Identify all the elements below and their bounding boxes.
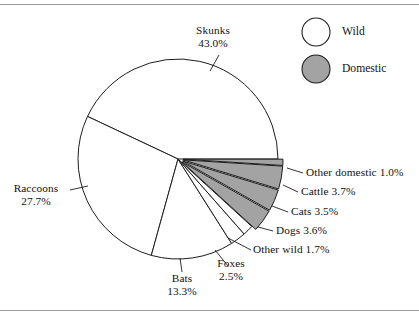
leader-line-bats <box>180 258 182 272</box>
slice-label-skunks-value: 43.0% <box>168 37 258 50</box>
slice-label-foxes-value: 2.5% <box>203 270 259 283</box>
leader-line-cattle <box>283 185 298 192</box>
slice-label-raccoons-value: 27.7% <box>2 195 70 208</box>
leader-line-cats <box>272 206 288 212</box>
slice-label-dogs: Dogs 3.6% <box>276 224 327 237</box>
pie-slices-group <box>78 59 283 259</box>
slice-label-other-domestic: Other domestic 1.0% <box>306 166 404 179</box>
slice-label-skunks-name: Skunks <box>196 24 230 36</box>
legend-swatches-group <box>302 18 330 83</box>
legend-label-domestic: Domestic <box>342 62 386 75</box>
leader-line-dogs <box>258 227 273 231</box>
leader-line-other-domestic <box>287 168 303 173</box>
slice-label-foxes: Foxes 2.5% <box>203 257 259 282</box>
slice-label-foxes-name: Foxes <box>217 257 245 269</box>
slice-label-raccoons-name: Raccoons <box>14 182 59 194</box>
slice-label-bats-value: 13.3% <box>145 285 219 298</box>
slice-label-raccoons: Raccoons 27.7% <box>2 182 70 207</box>
domestic-swatch-circle <box>302 55 330 83</box>
slice-label-other-wild: Other wild 1.7% <box>253 243 330 256</box>
slice-label-skunks: Skunks 43.0% <box>168 24 258 49</box>
legend-label-wild: Wild <box>342 25 365 38</box>
slice-label-cattle: Cattle 3.7% <box>301 185 355 198</box>
wild-swatch-circle <box>302 18 330 46</box>
slice-label-bats-name: Bats <box>172 272 192 284</box>
slice-label-cats: Cats 3.5% <box>291 205 338 218</box>
pie-chart-figure: Wild Domestic Skunks 43.0% Raccoons 27.7… <box>0 0 419 317</box>
